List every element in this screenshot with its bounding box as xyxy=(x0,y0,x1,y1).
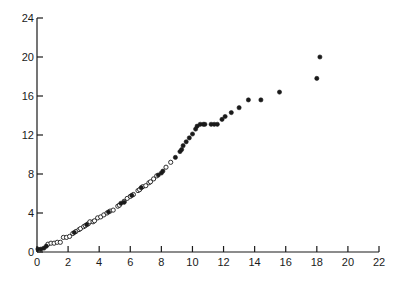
filled-circle-marker xyxy=(181,144,185,148)
x-tick-label: 8 xyxy=(158,256,164,268)
y-tick-label: 8 xyxy=(28,168,34,180)
y-axis-ticks: 04812162024 xyxy=(22,12,43,258)
x-tick-label: 20 xyxy=(342,256,354,268)
y-tick-label: 20 xyxy=(22,51,34,63)
filled-circle-marker xyxy=(237,106,241,110)
filled-circle-marker xyxy=(161,169,165,173)
open-circle-marker xyxy=(58,240,62,244)
open-circle-marker xyxy=(169,160,173,164)
x-tick-label: 0 xyxy=(34,256,40,268)
filled-circle-marker xyxy=(72,230,76,234)
y-tick-label: 0 xyxy=(28,246,34,258)
filled-circle-marker xyxy=(122,200,126,204)
axes xyxy=(37,18,379,252)
x-axis-ticks: 0246810121416182022 xyxy=(34,246,385,268)
y-tick-label: 4 xyxy=(28,207,34,219)
x-tick-label: 14 xyxy=(249,256,261,268)
filled-circle-marker xyxy=(130,193,134,197)
x-tick-label: 18 xyxy=(311,256,323,268)
filled-circle-marker xyxy=(85,223,89,227)
x-tick-label: 12 xyxy=(217,256,229,268)
filled-circle-marker xyxy=(173,155,177,159)
y-tick-label: 16 xyxy=(22,90,34,102)
x-tick-label: 22 xyxy=(373,256,385,268)
x-tick-label: 16 xyxy=(280,256,292,268)
open-circle-marker xyxy=(111,208,115,212)
y-tick-label: 24 xyxy=(22,12,34,24)
filled-circle-marker xyxy=(246,98,250,102)
filled-circle-marker xyxy=(277,90,281,94)
filled-circle-marker xyxy=(187,136,191,140)
filled-circle-marker xyxy=(184,140,188,144)
scatter-chart: 0246810121416182022 04812162024 xyxy=(0,0,401,284)
filled-circle-marker xyxy=(203,122,207,126)
x-tick-label: 2 xyxy=(65,256,71,268)
filled-circle-marker xyxy=(44,244,48,248)
x-tick-label: 10 xyxy=(186,256,198,268)
open-circle-marker xyxy=(164,165,168,169)
filled-circle-marker xyxy=(215,122,219,126)
filled-circle-marker xyxy=(259,98,263,102)
x-tick-label: 4 xyxy=(96,256,102,268)
filled-circle-marker xyxy=(139,186,143,190)
filled-circle-marker xyxy=(106,210,110,214)
data-points xyxy=(36,55,322,251)
filled-circle-marker xyxy=(315,76,319,80)
filled-circle-marker xyxy=(190,132,194,136)
x-tick-label: 6 xyxy=(127,256,133,268)
filled-circle-marker xyxy=(318,55,322,59)
filled-circle-marker xyxy=(229,111,233,115)
filled-circle-marker xyxy=(223,114,227,118)
y-tick-label: 12 xyxy=(22,129,34,141)
filled-circle-marker xyxy=(180,148,184,152)
